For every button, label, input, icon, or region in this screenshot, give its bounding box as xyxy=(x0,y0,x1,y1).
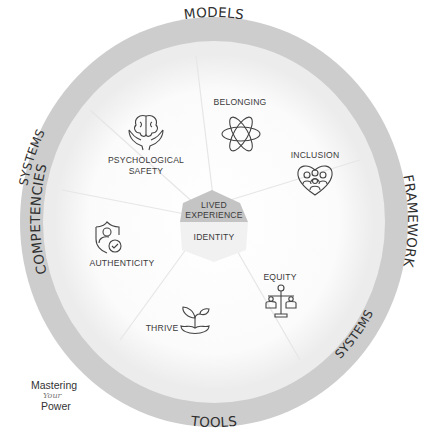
segment-label-authenticity: AUTHENTICITY xyxy=(82,258,162,269)
psychological-label-line2: SAFETY xyxy=(129,166,164,176)
segment-label-equity: EQUITY xyxy=(250,272,310,283)
center-label-line2: EXPERIENCE xyxy=(185,210,242,220)
center-label-lived-experience: LIVED EXPERIENCE xyxy=(184,200,244,220)
atom-icon xyxy=(219,112,263,156)
mastering-your-power-logo: Mastering Your Power xyxy=(31,379,91,412)
segment-label-belonging: BELONGING xyxy=(200,97,280,108)
brain-hands-icon xyxy=(125,110,167,152)
balance-scale-icon xyxy=(264,284,298,320)
shield-person-check-icon xyxy=(92,221,124,255)
heart-people-icon xyxy=(295,162,335,198)
center-label-identity: IDENTITY xyxy=(184,232,244,243)
sprout-icon xyxy=(178,306,212,342)
segment-label-inclusion: INCLUSION xyxy=(280,150,350,161)
logo-line2: Your xyxy=(43,391,91,400)
ring-diagram: MODELS TOOLS COMPETENCIES FRAMEWORK SYST… xyxy=(0,0,424,440)
logo-line3: Power xyxy=(41,400,91,412)
ring-label-models: MODELS xyxy=(183,4,245,22)
psychological-label-line1: PSYCHOLOGICAL xyxy=(108,155,184,165)
ring-label-tools: TOOLS xyxy=(189,412,238,430)
segment-label-psychological-safety: PSYCHOLOGICAL SAFETY xyxy=(100,155,192,177)
diagram: MODELS TOOLS COMPETENCIES FRAMEWORK SYST… xyxy=(0,0,424,440)
center-label-line1: LIVED xyxy=(201,200,227,210)
logo-line1: Mastering xyxy=(31,379,91,391)
